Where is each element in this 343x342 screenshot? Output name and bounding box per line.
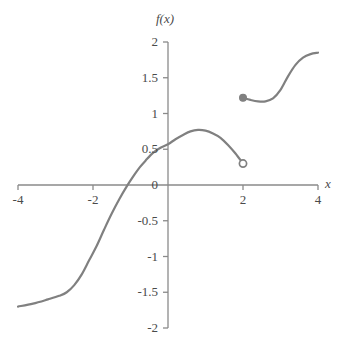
x-tick-label: -4: [0, 193, 38, 206]
y-tick-label: 2: [112, 35, 158, 48]
function-graph-figure: -4-224-2-1.5-1-0.500.511.52 f(x) x: [0, 0, 343, 342]
y-tick-label: -1: [112, 250, 158, 263]
y-axis-title: f(x): [156, 12, 174, 25]
x-tick-label: -2: [73, 193, 113, 206]
x-axis-title: x: [325, 177, 331, 190]
y-tick-label: 1.5: [112, 71, 158, 84]
y-tick-label: 1: [112, 107, 158, 120]
y-tick-label: 0.5: [112, 142, 158, 155]
y-tick-label: -2: [112, 321, 158, 334]
closed-endpoint-marker: [240, 94, 247, 101]
x-tick-label: 2: [223, 193, 263, 206]
open-endpoint-marker: [239, 160, 246, 167]
curve-right-branch: [243, 53, 318, 102]
x-tick-label: 4: [298, 193, 338, 206]
endpoint-markers: [239, 94, 246, 167]
axes: [18, 42, 318, 328]
y-tick-label: 0: [112, 178, 158, 191]
plot-canvas: [0, 0, 343, 342]
y-tick-label: -0.5: [112, 214, 158, 227]
y-tick-label: -1.5: [112, 285, 158, 298]
